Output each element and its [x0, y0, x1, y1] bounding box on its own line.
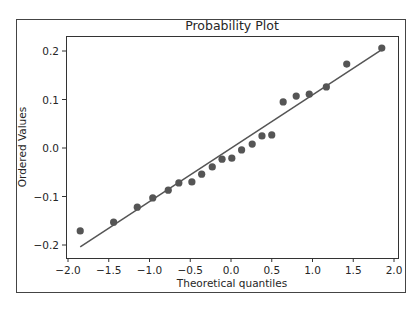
data-point	[209, 163, 216, 170]
data-point	[77, 227, 84, 234]
data-point	[293, 93, 300, 100]
data-point	[134, 204, 141, 211]
probability-plot-chart: Probability Plot −2.0−1.5−1.0−0.50.00.51…	[0, 0, 420, 309]
x-axis-label: Theoretical quantiles	[176, 277, 287, 289]
data-point	[149, 194, 156, 201]
data-point	[378, 44, 385, 51]
y-tick-label: −0.1	[34, 191, 60, 203]
data-point	[238, 146, 245, 153]
data-point	[258, 132, 265, 139]
x-tick-label: 1.0	[304, 264, 321, 276]
data-point	[323, 83, 330, 90]
data-point	[175, 179, 182, 186]
data-point	[188, 178, 195, 185]
x-tick-label: 0.5	[263, 264, 280, 276]
x-tick-label: −1.0	[137, 264, 163, 276]
y-tick-label: −0.2	[34, 239, 60, 251]
data-point	[110, 219, 117, 226]
y-tick-label: 0.1	[42, 94, 59, 106]
x-tick-label: −0.5	[178, 264, 204, 276]
x-tick-label: 0.0	[223, 264, 240, 276]
data-point	[228, 155, 235, 162]
x-axis-ticks: −2.0−1.5−1.0−0.50.00.51.01.52.0	[55, 258, 402, 276]
data-point	[268, 131, 275, 138]
y-axis-ticks: −0.2−0.10.00.10.2	[34, 45, 67, 251]
x-tick-label: 2.0	[386, 264, 403, 276]
y-tick-label: 0.2	[42, 45, 59, 57]
y-tick-label: 0.0	[42, 142, 59, 154]
y-axis-label: Ordered Values	[16, 107, 28, 187]
data-point	[198, 171, 205, 178]
data-point	[249, 141, 256, 148]
data-point	[306, 91, 313, 98]
x-tick-label: −2.0	[55, 264, 81, 276]
chart-title: Probability Plot	[185, 18, 279, 33]
x-tick-label: 1.5	[345, 264, 362, 276]
data-point	[343, 60, 350, 67]
data-point	[165, 187, 172, 194]
x-tick-label: −1.5	[96, 264, 122, 276]
data-point	[218, 156, 225, 163]
data-point	[280, 98, 287, 105]
